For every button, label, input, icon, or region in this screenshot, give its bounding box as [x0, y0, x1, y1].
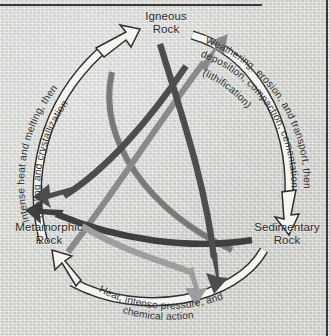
node-metamorphic-line2: Rock	[8, 234, 90, 247]
node-label-igneous: Igneous Rock	[134, 10, 198, 35]
node-sedimentary-line2: Rock	[248, 234, 326, 247]
node-igneous-line2: Rock	[134, 23, 198, 36]
diagram-canvas: Intense heat and melting, then cooling a…	[0, 0, 331, 336]
rock-cycle-diagram: Intense heat and melting, then cooling a…	[0, 0, 331, 336]
node-label-metamorphic: Metamorphic Rock	[8, 221, 90, 246]
rock-cycle-svg: Intense heat and melting, then cooling a…	[0, 0, 331, 336]
node-metamorphic-line1: Metamorphic	[8, 221, 90, 234]
node-label-sedimentary: Sedimentary Rock	[248, 221, 326, 246]
inner-arrow-sedimentary-to-igneous	[109, 72, 232, 250]
node-sedimentary-line1: Sedimentary	[248, 221, 326, 234]
node-igneous-line1: Igneous	[134, 10, 198, 23]
